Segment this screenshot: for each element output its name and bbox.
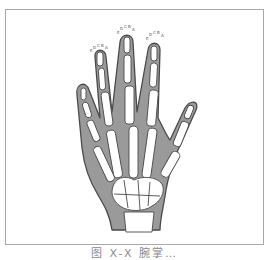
label-a: A [132, 27, 135, 32]
label-a: A [105, 45, 108, 50]
ring-fingertip-labels: E D C B A [146, 30, 164, 41]
middle-proximal-phalanx [125, 86, 134, 124]
label-d: D [93, 45, 96, 50]
label-c: C [153, 30, 156, 35]
middle-distal-phalanx [124, 37, 130, 53]
radius-ulna [124, 212, 154, 232]
label-a: A [161, 33, 164, 38]
label-b: B [101, 43, 104, 48]
figure-caption: 图 X-X 腕掌… [0, 244, 269, 260]
middle-metacarpal [129, 126, 138, 178]
label-c: C [124, 24, 127, 29]
label-d: D [120, 26, 123, 31]
middle-fingertip-labels: E D C B A [117, 24, 135, 35]
label-d: D [149, 32, 152, 37]
index-distal-phalanx [97, 52, 103, 66]
ring-distal-phalanx [151, 46, 157, 61]
ring-middle-phalanx [149, 63, 157, 87]
middle-middle-phalanx [124, 55, 131, 83]
index-middle-phalanx [98, 68, 106, 90]
label-c: C [97, 43, 100, 48]
label-b: B [128, 24, 131, 29]
little-distal-phalanx [81, 88, 86, 100]
label-b: B [157, 30, 160, 35]
